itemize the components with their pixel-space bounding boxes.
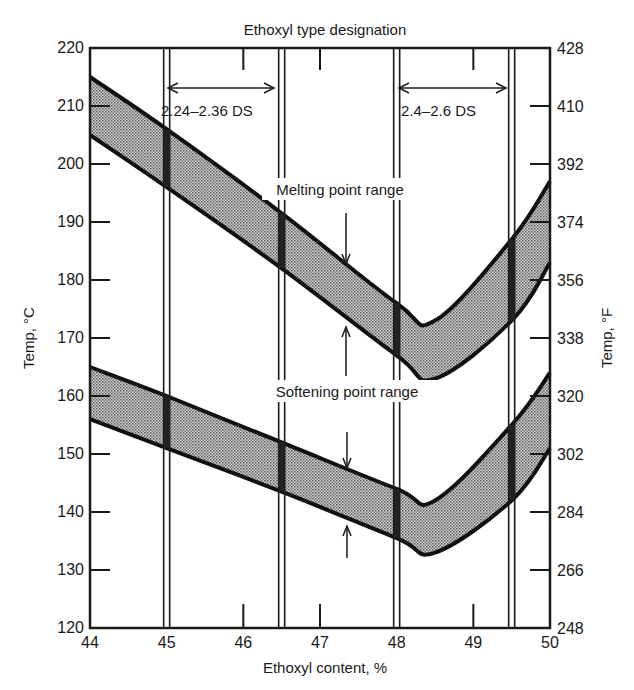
y-right-tick-label: 284 <box>557 504 584 521</box>
x-tick-label: 47 <box>311 634 329 651</box>
x-tick-label: 48 <box>388 634 406 651</box>
chart-title: Ethoxyl type designation <box>244 21 407 38</box>
melting-range-label: Melting point range <box>276 181 404 198</box>
y-right-tick-label: 392 <box>557 156 584 173</box>
y-tick-label: 210 <box>57 97 84 114</box>
y-tick-label: 120 <box>57 619 84 636</box>
y-axis-left-labels: 120130140150160170180190200210220 <box>57 39 84 636</box>
ds-label-1: 2.24–2.36 DS <box>161 102 253 119</box>
y-tick-label: 220 <box>57 39 84 56</box>
y-right-tick-label: 374 <box>557 214 584 231</box>
x-tick-label: 50 <box>541 634 559 651</box>
y-right-tick-label: 248 <box>557 620 584 637</box>
y-right-tick-label: 428 <box>557 40 584 57</box>
y-right-tick-label: 410 <box>557 98 584 115</box>
y-right-tick-label: 266 <box>557 562 584 579</box>
y-tick-label: 200 <box>57 155 84 172</box>
y-right-tick-label: 356 <box>557 272 584 289</box>
y-axis-right-title: Temp, °F <box>598 308 615 368</box>
range-bands <box>90 77 550 555</box>
x-tick-label: 49 <box>464 634 482 651</box>
y-axis-left-title: Temp, °C <box>20 307 37 369</box>
y-right-tick-label: 338 <box>557 330 584 347</box>
x-axis-labels: 44454647484950 <box>81 634 559 651</box>
y-axis-right-labels: 248266284302320338356374392410428 <box>557 40 584 637</box>
ds-arrow-1 <box>168 83 274 93</box>
y-tick-label: 150 <box>57 445 84 462</box>
ds-label-2: 2.4–2.6 DS <box>401 102 476 119</box>
x-axis-title: Ethoxyl content, % <box>263 659 387 676</box>
y-right-tick-label: 302 <box>557 446 584 463</box>
chart-canvas: 120130140150160170180190200210220 248266… <box>0 0 634 690</box>
softening-range-label: Softening point range <box>276 383 419 400</box>
y-tick-label: 130 <box>57 561 84 578</box>
y-right-tick-label: 320 <box>557 388 584 405</box>
y-tick-label: 170 <box>57 329 84 346</box>
x-tick-label: 45 <box>158 634 176 651</box>
y-tick-label: 160 <box>57 387 84 404</box>
y-tick-label: 140 <box>57 503 84 520</box>
y-tick-label: 180 <box>57 271 84 288</box>
x-tick-label: 44 <box>81 634 99 651</box>
x-tick-label: 46 <box>234 634 252 651</box>
ds-arrow-2 <box>399 83 506 93</box>
y-tick-label: 190 <box>57 213 84 230</box>
